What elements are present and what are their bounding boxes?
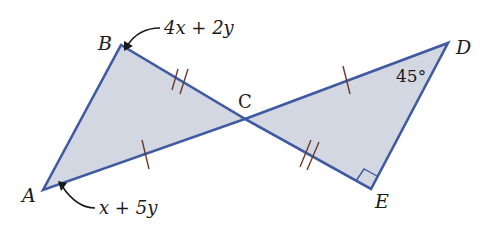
angle-label-d: 45° — [396, 66, 426, 86]
angle-label-b: 4x + 2y — [163, 17, 235, 38]
angle-label-a: x + 5y — [99, 197, 158, 218]
triangle-abc — [43, 45, 245, 190]
triangle-dec — [245, 43, 448, 189]
vertex-label-b: B — [97, 32, 112, 54]
vertex-label-d: D — [455, 36, 471, 58]
vertex-label-e: E — [374, 190, 389, 212]
vertex-label-c: C — [238, 91, 252, 112]
geometry-diagram: A B C D E 4x + 2y x + 5y 45° — [0, 0, 490, 227]
vertex-label-a: A — [20, 184, 36, 206]
arrow-to-b — [124, 28, 160, 51]
arrow-to-a — [58, 181, 95, 208]
